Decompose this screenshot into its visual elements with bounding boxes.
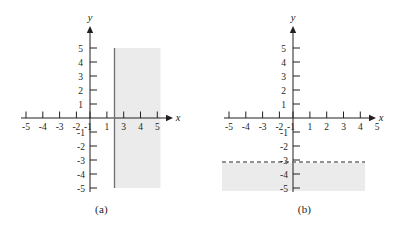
x-tick-label-a-neg-4: -4 [39, 122, 47, 132]
y-axis-label-a: y [87, 12, 93, 23]
x-tick-label-b-pos-2: 2 [324, 122, 329, 132]
y-tick-label-b-neg-1: -1 [280, 128, 288, 138]
y-tick-label-b-neg-2: -2 [280, 142, 288, 152]
y-ticks-positive-a [90, 48, 97, 104]
panel-caption-b: (b) [203, 203, 406, 215]
plot-svg-b: -5 -4 -3 -2 -1 1 2 3 4 5 1 2 3 4 5 -1 -2 [203, 0, 406, 205]
y-tick-label-a-pos-1: 1 [78, 100, 83, 110]
x-tick-label-b-pos-4: 4 [358, 122, 363, 132]
x-tick-label-b-neg-3: -3 [259, 122, 267, 132]
x-ticks-negative-b [229, 112, 293, 119]
x-tick-label-b-pos-3: 3 [341, 122, 346, 132]
x-tick-label-a-pos-4: 4 [138, 122, 143, 132]
y-tick-label-a-pos-2: 2 [78, 86, 83, 96]
y-tick-label-a-neg-5: -5 [77, 184, 85, 194]
coordinate-plane-b: -5 -4 -3 -2 -1 1 2 3 4 5 1 2 3 4 5 -1 -2 [203, 0, 406, 205]
panel-b: -5 -4 -3 -2 -1 1 2 3 4 5 1 2 3 4 5 -1 -2 [203, 0, 406, 231]
figure-container: -5 -4 -3 -2 -1 1 3 4 5 1 2 3 4 5 -1 -2 -… [0, 0, 406, 231]
x-ticks-negative-a [26, 112, 90, 119]
x-tick-label-a-neg-5: -5 [22, 122, 30, 132]
x-axis-label-b: x [378, 112, 384, 123]
y-tick-label-a-neg-2: -2 [77, 142, 85, 152]
y-tick-label-a-pos-4: 4 [78, 58, 83, 68]
x-axis-label-a: x [175, 112, 181, 123]
x-tick-label-a-neg-1: -1 [84, 122, 92, 132]
x-tick-label-b-neg-1: -1 [287, 122, 295, 132]
x-tick-label-b-neg-4: -4 [242, 122, 250, 132]
x-axis-arrow-b [369, 115, 376, 121]
y-tick-label-b-neg-4: -4 [280, 170, 288, 180]
y-tick-label-a-neg-1: -1 [77, 128, 85, 138]
y-tick-label-b-pos-5: 5 [281, 44, 286, 54]
x-tick-label-a-neg-3: -3 [56, 122, 64, 132]
y-tick-label-a-pos-3: 3 [78, 72, 83, 82]
y-tick-label-a-neg-3: -3 [77, 156, 85, 166]
x-ticks-positive-b [310, 112, 360, 119]
panel-caption-a: (a) [0, 203, 203, 215]
y-tick-label-b-pos-3: 3 [281, 72, 286, 82]
y-tick-label-b-pos-2: 2 [281, 86, 286, 96]
y-axis-label-b: y [290, 12, 296, 23]
y-axis-arrow-b [290, 26, 296, 33]
x-tick-label-a-pos-1: 1 [105, 122, 110, 132]
x-tick-label-b-pos-5: 5 [375, 122, 380, 132]
y-tick-label-b-pos-4: 4 [281, 58, 286, 68]
y-ticks-positive-b [293, 48, 300, 104]
y-tick-label-a-neg-4: -4 [77, 170, 85, 180]
x-tick-label-b-neg-5: -5 [225, 122, 233, 132]
y-tick-label-a-pos-5: 5 [78, 44, 83, 54]
coordinate-plane-a: -5 -4 -3 -2 -1 1 3 4 5 1 2 3 4 5 -1 -2 -… [0, 0, 203, 205]
plot-svg-a: -5 -4 -3 -2 -1 1 3 4 5 1 2 3 4 5 -1 -2 -… [0, 0, 203, 205]
x-tick-label-b-pos-1: 1 [308, 122, 313, 132]
y-tick-label-b-pos-1: 1 [281, 100, 286, 110]
y-axis-arrow-a [87, 26, 93, 33]
panel-a: -5 -4 -3 -2 -1 1 3 4 5 1 2 3 4 5 -1 -2 -… [0, 0, 203, 231]
y-tick-label-b-neg-3: -3 [280, 156, 288, 166]
x-tick-label-a-pos-5: 5 [155, 122, 160, 132]
x-tick-label-a-pos-3: 3 [121, 122, 126, 132]
y-ticks-negative-a [90, 132, 97, 188]
y-tick-label-b-neg-5: -5 [280, 184, 288, 194]
x-axis-arrow-a [166, 115, 173, 121]
